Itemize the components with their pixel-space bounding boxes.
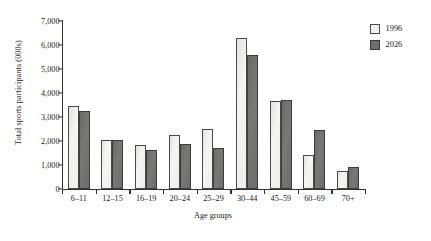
- y-tick-label: 1,000: [41, 161, 59, 170]
- x-tick-label: 6–11: [71, 194, 87, 203]
- y-tick-label: 0: [55, 185, 59, 194]
- bar-group: [264, 21, 298, 189]
- x-tick-label: 25–29: [203, 194, 223, 203]
- x-tick-label: 20–24: [170, 194, 190, 203]
- bar-1996-20-24: [169, 135, 180, 189]
- legend-label-1996: 1996: [386, 24, 403, 33]
- legend-swatch-2026: [370, 40, 380, 50]
- bar-2026-45-59: [281, 100, 292, 189]
- bar-group: [62, 21, 96, 189]
- x-tick-mark: [264, 189, 265, 194]
- bar-2026-16-19: [146, 150, 157, 189]
- bar-group: [230, 21, 264, 189]
- bar-2026-20-24: [180, 144, 191, 189]
- bar-2026-70+: [348, 167, 359, 189]
- x-axis-title: Age groups: [194, 211, 232, 220]
- y-axis-title: Total sports participants (000s): [14, 13, 23, 173]
- x-tick-mark: [365, 189, 366, 194]
- bar-2026-6-11: [79, 111, 90, 189]
- x-tick-mark: [197, 189, 198, 194]
- legend-label-2026: 2026: [386, 40, 403, 49]
- bar-group: [298, 21, 332, 189]
- y-tick-label: 4,000: [41, 89, 59, 98]
- x-tick-label: 16–19: [136, 194, 156, 203]
- x-tick-label: 70+: [342, 194, 355, 203]
- bar-1996-60-69: [303, 155, 314, 189]
- bar-2026-12-15: [112, 140, 123, 189]
- bar-group: [96, 21, 130, 189]
- bar-1996-12-15: [101, 140, 112, 189]
- chart-legend: 1996 2026: [370, 24, 402, 56]
- x-tick-label: 12–15: [102, 194, 122, 203]
- x-tick-mark: [96, 189, 97, 194]
- bar-1996-16-19: [135, 145, 146, 189]
- y-tick-label: 7,000: [41, 17, 59, 26]
- y-tick-label: 3,000: [41, 113, 59, 122]
- x-tick-mark: [230, 189, 231, 194]
- x-tick-mark: [62, 189, 63, 194]
- x-tick-label: 60–69: [304, 194, 324, 203]
- bar-1996-70+: [337, 171, 348, 189]
- bar-2026-30-44: [247, 55, 258, 189]
- legend-item-2026: 2026: [370, 40, 402, 50]
- x-tick-label: 30–44: [237, 194, 257, 203]
- bar-group: [163, 21, 197, 189]
- plot-area: 01,0002,0003,0004,0005,0006,0007,000: [62, 21, 365, 189]
- y-tick-label: 6,000: [41, 41, 59, 50]
- x-tick-mark: [331, 189, 332, 194]
- bar-1996-45-59: [270, 101, 281, 189]
- y-tick-label: 2,000: [41, 137, 59, 146]
- bar-group: [331, 21, 365, 189]
- bar-2026-60-69: [314, 130, 325, 189]
- x-axis-line: [62, 189, 365, 190]
- y-tick-label: 5,000: [41, 65, 59, 74]
- legend-swatch-1996: [370, 24, 380, 34]
- x-tick-mark: [298, 189, 299, 194]
- x-tick-label: 45–59: [271, 194, 291, 203]
- bar-1996-30-44: [236, 38, 247, 189]
- bar-1996-25-29: [202, 129, 213, 189]
- legend-item-1996: 1996: [370, 24, 402, 34]
- bar-group: [129, 21, 163, 189]
- bar-2026-25-29: [213, 148, 224, 189]
- x-tick-mark: [129, 189, 130, 194]
- x-tick-mark: [163, 189, 164, 194]
- bar-group: [197, 21, 231, 189]
- bar-chart: Total sports participants (000s) 01,0002…: [0, 0, 431, 241]
- bar-1996-6-11: [68, 106, 79, 189]
